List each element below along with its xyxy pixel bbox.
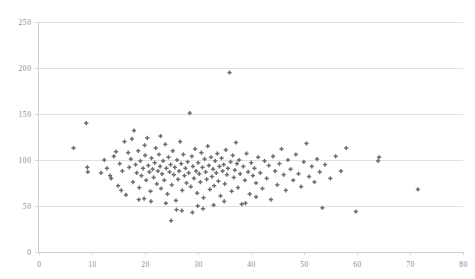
data-point [235, 162, 239, 166]
data-point [243, 178, 247, 182]
data-point [135, 171, 139, 175]
data-point [225, 173, 229, 177]
y-tick-label-200: 200 [18, 64, 31, 73]
data-point [310, 164, 314, 168]
data-point [210, 174, 214, 178]
data-point [230, 189, 234, 193]
data-point [246, 170, 250, 174]
data-point [209, 155, 213, 159]
x-axis-ticks: 01020304050607080 [37, 252, 468, 269]
data-point [131, 180, 135, 184]
data-point [153, 161, 157, 165]
data-point [277, 162, 281, 166]
data-point [206, 144, 210, 148]
data-point [334, 154, 338, 158]
data-point [149, 199, 153, 203]
data-point [318, 170, 322, 174]
data-point [144, 178, 148, 182]
data-point [205, 177, 209, 181]
data-point [223, 182, 227, 186]
data-point [112, 154, 116, 158]
data-point [192, 176, 196, 180]
data-point [194, 169, 198, 173]
data-point [212, 184, 216, 188]
data-point [260, 186, 264, 190]
x-tick-label-50: 50 [300, 260, 309, 269]
data-point [137, 197, 141, 201]
data-point [219, 156, 223, 160]
data-point [139, 174, 143, 178]
data-point [138, 159, 142, 163]
data-point [176, 177, 180, 181]
data-point [161, 159, 165, 163]
data-points-group [71, 71, 420, 223]
data-point [191, 164, 195, 168]
data-point [86, 170, 90, 174]
data-point [254, 181, 258, 185]
data-point [183, 166, 187, 170]
data-point [132, 128, 136, 132]
data-point [238, 172, 242, 176]
x-tick-label-20: 20 [141, 260, 150, 269]
y-axis-ticks: 050100150200250 [18, 18, 38, 257]
data-point [354, 209, 358, 213]
data-point [143, 153, 147, 157]
data-point [252, 166, 256, 170]
data-point [271, 154, 275, 158]
data-point [181, 152, 185, 156]
data-point [312, 180, 316, 184]
axes-group [39, 22, 464, 253]
data-point [114, 150, 118, 154]
data-point [130, 137, 134, 141]
data-point [170, 183, 174, 187]
data-point [85, 165, 89, 169]
data-point [248, 192, 252, 196]
data-point [174, 198, 178, 202]
data-point [307, 174, 311, 178]
data-point [102, 158, 106, 162]
data-point [71, 146, 75, 150]
data-point [201, 196, 205, 200]
data-point [148, 189, 152, 193]
data-point [196, 161, 200, 165]
data-point [160, 172, 164, 176]
data-point [134, 163, 138, 167]
data-point [99, 171, 103, 175]
x-tick-label-0: 0 [37, 260, 41, 269]
data-point [163, 142, 167, 146]
data-point [222, 199, 226, 203]
x-tick-label-70: 70 [406, 260, 415, 269]
data-point [323, 163, 327, 167]
data-point [232, 175, 236, 179]
data-point [177, 169, 181, 173]
data-point [127, 165, 131, 169]
data-point [207, 163, 211, 167]
data-point [328, 176, 332, 180]
data-point [189, 185, 193, 189]
data-point [196, 204, 200, 208]
plot-canvas: 01020304050607080 050100150200250 [0, 0, 475, 279]
data-point [339, 169, 343, 173]
data-point [119, 188, 123, 192]
data-point [265, 176, 269, 180]
data-point [234, 140, 238, 144]
data-point [143, 143, 147, 147]
x-tick-label-30: 30 [194, 260, 203, 269]
data-point [275, 183, 279, 187]
data-point [164, 166, 168, 170]
data-point [214, 171, 218, 175]
data-point [240, 202, 244, 206]
data-point [204, 170, 208, 174]
data-point [180, 188, 184, 192]
data-point [291, 178, 295, 182]
data-point [195, 191, 199, 195]
data-point [262, 159, 266, 163]
data-point [187, 171, 191, 175]
data-point [213, 159, 217, 163]
data-point [222, 163, 226, 167]
gridlines-group [39, 23, 464, 207]
data-point [193, 147, 197, 151]
x-tick-label-40: 40 [247, 260, 256, 269]
data-point [299, 185, 303, 189]
data-point [142, 197, 146, 201]
